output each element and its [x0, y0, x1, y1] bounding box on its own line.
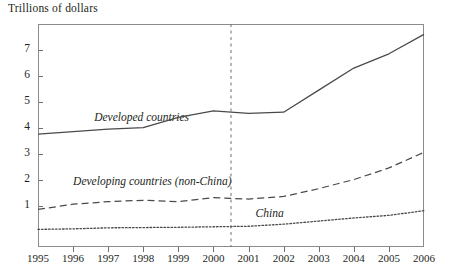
x-tick-mark [213, 247, 214, 252]
y-tick-label: 1 [8, 198, 30, 210]
y-tick-label: 3 [8, 146, 30, 158]
x-tick-mark [143, 247, 144, 252]
y-tick-label: 7 [8, 42, 30, 54]
y-tick-label: 5 [8, 94, 30, 106]
x-tick-mark [284, 247, 285, 252]
y-axis-title: Trillions of dollars [8, 2, 98, 14]
x-tick-label: 2006 [402, 252, 446, 264]
x-tick-mark [319, 247, 320, 252]
y-tick-label: 6 [8, 68, 30, 80]
chart-figure: Trillions of dollars 1234567 19951996199… [0, 0, 463, 275]
series-lines [38, 24, 424, 247]
y-tick-label: 4 [8, 120, 30, 132]
x-tick-mark [73, 247, 74, 252]
x-tick-mark [108, 247, 109, 252]
y-tick-label: 2 [8, 172, 30, 184]
x-tick-mark [354, 247, 355, 252]
x-tick-mark [389, 247, 390, 252]
x-tick-mark [249, 247, 250, 252]
plot-area [38, 24, 424, 247]
x-tick-mark [178, 247, 179, 252]
